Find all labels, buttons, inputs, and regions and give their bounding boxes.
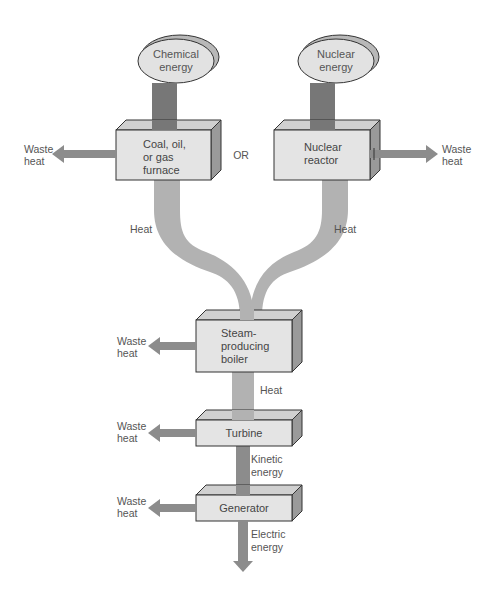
turbine-label: Turbine (226, 427, 263, 439)
reactor-label-1: Nuclear (304, 141, 342, 153)
electric-label-2: energy (251, 541, 284, 553)
nuclear-energy-label-1: Nuclear (317, 48, 355, 60)
power-plant-diagram: Chemical energy Nuclear energy Coal, oil… (0, 0, 496, 590)
chemical-energy-label-2: energy (159, 61, 193, 73)
furnace-label-1: Coal, oil, (143, 138, 186, 150)
waste-arrow-boiler (148, 337, 196, 355)
heat-right-label: Heat (334, 223, 356, 235)
waste-turbine-label-1: Waste (117, 420, 147, 432)
heat-flow-left (154, 178, 254, 318)
electric-label-1: Electric (251, 528, 285, 540)
or-label: OR (233, 149, 249, 161)
electric-output-arrow (233, 521, 253, 572)
waste-arrow-furnace (52, 145, 116, 163)
generator-box: Generator (196, 485, 302, 521)
waste-boiler-label-2: heat (117, 347, 138, 359)
chemical-energy-source: Chemical energy (138, 35, 219, 83)
waste-turbine-label-2: heat (117, 432, 138, 444)
generator-label: Generator (219, 502, 269, 514)
waste-generator-label-1: Waste (117, 495, 147, 507)
boiler-box: Steam- producing boiler (196, 308, 302, 372)
chemical-energy-label-1: Chemical (153, 48, 199, 60)
chemical-input-bar (152, 83, 177, 125)
waste-furnace-label-2: heat (24, 155, 45, 167)
reactor-label-2: reactor (304, 154, 339, 166)
kinetic-label-1: Kinetic (251, 453, 283, 465)
turbine-box: Turbine (196, 410, 302, 446)
waste-reactor-label-1: Waste (442, 143, 472, 155)
waste-arrow-turbine (148, 424, 196, 442)
heat-left-label: Heat (130, 223, 152, 235)
nuclear-input-bar (310, 83, 335, 125)
heat-boiler-label: Heat (260, 384, 282, 396)
boiler-label-2: producing (221, 340, 269, 352)
waste-reactor-label-2: heat (442, 155, 463, 167)
reactor-box: Nuclear reactor (274, 120, 380, 180)
waste-furnace-label-1: Waste (24, 143, 54, 155)
boiler-label-1: Steam- (221, 327, 257, 339)
furnace-label-3: furnace (143, 164, 180, 176)
waste-boiler-label-1: Waste (117, 335, 147, 347)
boiler-label-3: boiler (221, 353, 248, 365)
nuclear-energy-source: Nuclear energy (298, 35, 379, 83)
kinetic-label-2: energy (251, 466, 284, 478)
nuclear-energy-label-2: energy (319, 61, 353, 73)
furnace-label-2: or gas (143, 151, 174, 163)
waste-arrow-generator (148, 499, 196, 517)
kinetic-flow-bar (236, 446, 250, 488)
furnace-box: Coal, oil, or gas furnace (116, 120, 221, 180)
heat-flow-right (250, 178, 348, 318)
waste-generator-label-2: heat (117, 507, 138, 519)
